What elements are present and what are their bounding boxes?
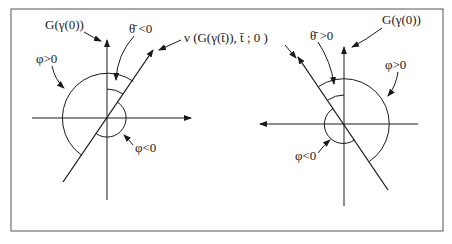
left-phi-negative-arc: [96, 102, 126, 137]
right-theta-arc: [328, 95, 344, 100]
normal-vector-label: ν (G(γ(t̄)), t̄ ; 0 ): [184, 30, 268, 45]
right-phi-positive-label: φ>0: [385, 57, 406, 72]
left-theta-arc: [107, 89, 123, 94]
left-phi-negative-label: φ<0: [135, 140, 156, 155]
left-normal-vector: [63, 50, 153, 182]
right-phi-positive-pointer: [388, 72, 398, 96]
right-axis-label: G(γ(0)): [382, 12, 421, 27]
left-axis-label-pointer: [84, 32, 101, 41]
left-theta-label: θ̄ <0: [129, 21, 152, 36]
left-phi-positive-arc: [62, 73, 133, 155]
left-axis-label: G(γ(0)): [45, 17, 84, 32]
right-panel: [260, 28, 418, 206]
right-phi-negative-label: φ<0: [295, 148, 316, 163]
diagram-figure: G(γ(0)) θ̄ <0 φ>0 φ<0 ν (G(γ(t̄)), t̄ ; …: [0, 0, 452, 244]
right-phi-negative-pointer: [318, 140, 330, 153]
right-axis-label-pointer: [352, 28, 382, 47]
right-phi-negative-arc: [324, 108, 354, 143]
left-phi-positive-pointer: [52, 66, 64, 88]
left-theta-pointer: [116, 36, 134, 80]
right-theta-pointer: [318, 42, 334, 84]
right-phi-positive-arc: [319, 79, 390, 162]
left-phi-negative-pointer: [124, 135, 133, 145]
shared-label-pointer-right: [285, 45, 296, 58]
right-theta-label: θ̄ >0: [310, 28, 333, 43]
shared-label-pointer-left: [159, 40, 181, 50]
left-phi-positive-label: φ>0: [36, 51, 57, 66]
